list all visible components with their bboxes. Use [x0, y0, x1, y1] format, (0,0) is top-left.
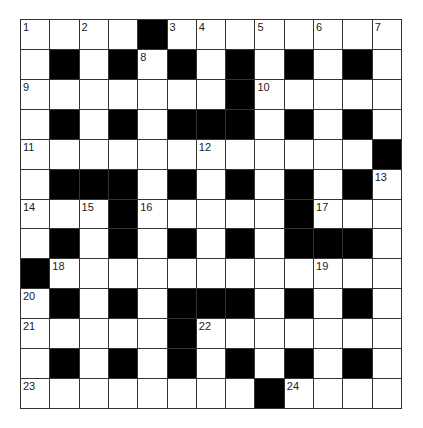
answer-cell[interactable] — [373, 110, 401, 139]
answer-cell[interactable] — [314, 170, 342, 199]
answer-cell[interactable] — [373, 319, 401, 348]
answer-cell[interactable] — [255, 229, 283, 258]
answer-cell[interactable] — [109, 319, 137, 348]
answer-cell[interactable] — [314, 349, 342, 378]
answer-cell[interactable]: 4 — [197, 20, 225, 49]
answer-cell[interactable] — [255, 200, 283, 229]
answer-cell[interactable]: 6 — [314, 20, 342, 49]
answer-cell[interactable] — [285, 140, 313, 169]
answer-cell[interactable] — [197, 50, 225, 79]
answer-cell[interactable] — [226, 259, 254, 288]
answer-cell[interactable] — [226, 200, 254, 229]
answer-cell[interactable]: 8 — [138, 50, 166, 79]
answer-cell[interactable] — [314, 110, 342, 139]
answer-cell[interactable] — [314, 319, 342, 348]
answer-cell[interactable] — [21, 229, 49, 258]
answer-cell[interactable]: 15 — [80, 200, 108, 229]
answer-cell[interactable] — [285, 319, 313, 348]
answer-cell[interactable] — [21, 50, 49, 79]
answer-cell[interactable] — [255, 259, 283, 288]
answer-cell[interactable] — [373, 50, 401, 79]
answer-cell[interactable] — [373, 379, 401, 408]
answer-cell[interactable] — [138, 80, 166, 109]
answer-cell[interactable] — [373, 80, 401, 109]
answer-cell[interactable]: 3 — [168, 20, 196, 49]
answer-cell[interactable]: 7 — [373, 20, 401, 49]
answer-cell[interactable] — [50, 20, 78, 49]
answer-cell[interactable] — [109, 20, 137, 49]
answer-cell[interactable]: 19 — [314, 259, 342, 288]
answer-cell[interactable] — [138, 170, 166, 199]
answer-cell[interactable] — [21, 170, 49, 199]
answer-cell[interactable] — [80, 50, 108, 79]
answer-cell[interactable] — [343, 80, 371, 109]
answer-cell[interactable] — [50, 319, 78, 348]
answer-cell[interactable]: 20 — [21, 289, 49, 318]
answer-cell[interactable] — [343, 200, 371, 229]
answer-cell[interactable] — [21, 349, 49, 378]
answer-cell[interactable] — [80, 379, 108, 408]
answer-cell[interactable] — [138, 289, 166, 318]
answer-cell[interactable] — [255, 110, 283, 139]
answer-cell[interactable] — [197, 379, 225, 408]
answer-cell[interactable] — [226, 140, 254, 169]
answer-cell[interactable] — [197, 229, 225, 258]
answer-cell[interactable] — [314, 379, 342, 408]
answer-cell[interactable] — [80, 140, 108, 169]
answer-cell[interactable] — [168, 259, 196, 288]
answer-cell[interactable]: 21 — [21, 319, 49, 348]
answer-cell[interactable] — [285, 259, 313, 288]
answer-cell[interactable] — [285, 20, 313, 49]
answer-cell[interactable]: 9 — [21, 80, 49, 109]
answer-cell[interactable] — [197, 349, 225, 378]
answer-cell[interactable] — [197, 259, 225, 288]
answer-cell[interactable]: 23 — [21, 379, 49, 408]
answer-cell[interactable] — [255, 319, 283, 348]
answer-cell[interactable] — [314, 289, 342, 318]
answer-cell[interactable] — [373, 289, 401, 318]
answer-cell[interactable] — [80, 349, 108, 378]
answer-cell[interactable]: 18 — [50, 259, 78, 288]
answer-cell[interactable] — [255, 50, 283, 79]
answer-cell[interactable]: 10 — [255, 80, 283, 109]
answer-cell[interactable] — [373, 200, 401, 229]
answer-cell[interactable]: 22 — [197, 319, 225, 348]
answer-cell[interactable] — [138, 140, 166, 169]
answer-cell[interactable] — [314, 140, 342, 169]
answer-cell[interactable]: 5 — [255, 20, 283, 49]
answer-cell[interactable] — [197, 170, 225, 199]
answer-cell[interactable] — [343, 20, 371, 49]
answer-cell[interactable] — [138, 349, 166, 378]
answer-cell[interactable]: 14 — [21, 200, 49, 229]
answer-cell[interactable] — [50, 200, 78, 229]
answer-cell[interactable] — [343, 379, 371, 408]
answer-cell[interactable] — [80, 259, 108, 288]
answer-cell[interactable]: 16 — [138, 200, 166, 229]
answer-cell[interactable] — [343, 319, 371, 348]
answer-cell[interactable] — [50, 140, 78, 169]
answer-cell[interactable]: 11 — [21, 140, 49, 169]
answer-cell[interactable] — [138, 229, 166, 258]
answer-cell[interactable] — [343, 140, 371, 169]
answer-cell[interactable] — [226, 379, 254, 408]
answer-cell[interactable] — [109, 140, 137, 169]
answer-cell[interactable] — [255, 289, 283, 318]
answer-cell[interactable] — [226, 319, 254, 348]
answer-cell[interactable] — [109, 80, 137, 109]
answer-cell[interactable] — [255, 170, 283, 199]
answer-cell[interactable] — [80, 289, 108, 318]
answer-cell[interactable] — [138, 259, 166, 288]
answer-cell[interactable] — [21, 110, 49, 139]
answer-cell[interactable] — [109, 379, 137, 408]
answer-cell[interactable] — [138, 379, 166, 408]
answer-cell[interactable] — [255, 349, 283, 378]
answer-cell[interactable]: 13 — [373, 170, 401, 199]
answer-cell[interactable] — [80, 319, 108, 348]
answer-cell[interactable] — [138, 319, 166, 348]
answer-cell[interactable] — [197, 200, 225, 229]
answer-cell[interactable] — [314, 50, 342, 79]
answer-cell[interactable] — [50, 80, 78, 109]
answer-cell[interactable] — [138, 110, 166, 139]
answer-cell[interactable] — [168, 379, 196, 408]
answer-cell[interactable]: 12 — [197, 140, 225, 169]
